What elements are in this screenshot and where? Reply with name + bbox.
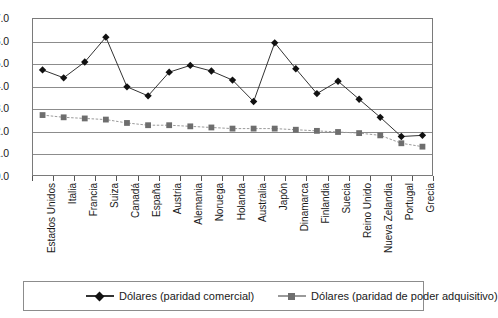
x-axis-category-label: Estados Unidos [47, 183, 57, 253]
square-marker-icon [420, 144, 426, 150]
square-marker-icon [314, 128, 320, 134]
x-axis-category-label: Grecia [426, 183, 436, 212]
x-axis-category-label: Portugal [405, 183, 415, 220]
x-axis-tick [180, 176, 181, 181]
x-axis-category-label: Francia [89, 183, 99, 216]
diamond-marker-icon [60, 74, 67, 81]
x-axis-tick [32, 176, 33, 181]
x-axis-tick [264, 176, 265, 181]
series-2 [40, 112, 426, 149]
x-axis-tick [116, 176, 117, 181]
square-marker-icon [124, 120, 130, 126]
x-axis-category-label: Noruega [215, 183, 225, 221]
square-marker-icon [293, 127, 299, 133]
y-axis-tick-label: 3.0 [0, 103, 9, 113]
square-marker-icon [356, 130, 362, 136]
x-axis-tick [306, 176, 307, 181]
x-axis-tick [201, 176, 202, 181]
y-axis-tick-label: 0.0 [0, 171, 9, 181]
chart-legend: Dólares (paridad comercial) Dólares (par… [23, 281, 424, 311]
square-marker-icon [166, 122, 172, 128]
x-axis-tick [285, 176, 286, 181]
x-axis-tick [328, 176, 329, 181]
square-marker-icon [103, 117, 109, 123]
x-axis-category-label: Canadá [131, 183, 141, 218]
x-axis-category-label: Alemania [194, 183, 204, 225]
legend-item-ppp: Dólares (paridad de poder adquisitivo) [278, 290, 498, 302]
x-axis-tick [433, 176, 434, 181]
x-axis-category-label: Japón [279, 183, 289, 210]
legend-label-commercial-parity: Dólares (paridad comercial) [119, 290, 254, 302]
diamond-marker-icon [419, 132, 426, 139]
y-axis-tick-label: 5.0 [0, 58, 9, 68]
diamond-marker-icon [123, 83, 130, 90]
x-axis-tick [243, 176, 244, 181]
x-axis-tick [138, 176, 139, 181]
legend-item-commercial-parity: Dólares (paridad comercial) [86, 290, 254, 302]
diamond-marker-icon [208, 67, 215, 74]
y-axis-tick-label: 2.0 [0, 126, 9, 136]
series-1 [39, 34, 426, 141]
x-axis-tick [74, 176, 75, 181]
x-axis-category-label: Nueva Zelandia [384, 183, 394, 253]
y-axis-tick-label: 6.0 [0, 36, 9, 46]
square-marker-icon [377, 132, 383, 138]
legend-label-ppp: Dólares (paridad de poder adquisitivo) [311, 290, 498, 302]
x-axis-tick [349, 176, 350, 181]
x-axis-tick [53, 176, 54, 181]
x-axis-category-label: España [152, 183, 162, 217]
square-marker-icon [278, 290, 306, 302]
square-marker-icon [40, 112, 46, 118]
x-axis-category-label: Australia [258, 183, 268, 222]
square-marker-icon [335, 129, 341, 135]
series-line [43, 37, 423, 136]
x-axis-tick [391, 176, 392, 181]
x-axis-tick [222, 176, 223, 181]
diamond-marker-icon [187, 62, 194, 69]
y-axis-tick-label: 1.0 [0, 148, 9, 158]
x-axis-tick [412, 176, 413, 181]
diamond-marker-icon [86, 290, 114, 302]
x-axis-tick [159, 176, 160, 181]
x-axis-category-label: Suecia [342, 183, 352, 214]
diamond-marker-icon [39, 66, 46, 73]
square-marker-icon [208, 125, 214, 131]
square-marker-icon [145, 122, 151, 128]
y-axis-tick-label: 4.0 [0, 81, 9, 91]
x-axis-category-label: Suiza [110, 183, 120, 208]
x-axis-category-label: Finlandia [321, 183, 331, 224]
x-axis-category-label: Italia [68, 183, 78, 204]
x-axis-category-label: Austria [173, 183, 183, 214]
square-marker-icon [398, 140, 404, 146]
x-axis-tick [95, 176, 96, 181]
x-axis-tick [370, 176, 371, 181]
x-axis-category-label: Holanda [237, 183, 247, 220]
x-axis-category-label: Reino Unido [363, 183, 373, 238]
square-marker-icon [230, 126, 236, 132]
square-marker-icon [251, 126, 257, 132]
square-marker-icon [187, 123, 193, 129]
data-series-layer [32, 18, 433, 176]
square-marker-icon [82, 116, 88, 122]
square-marker-icon [61, 114, 67, 120]
square-marker-icon [272, 126, 278, 132]
y-axis-tick-label: 7.0 [0, 13, 9, 23]
x-axis-category-label: Dinamarca [300, 183, 310, 231]
